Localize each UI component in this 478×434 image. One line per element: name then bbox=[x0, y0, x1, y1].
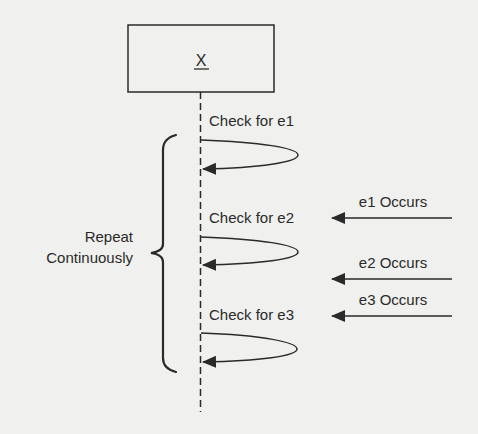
event-e2: e2 Occurs bbox=[332, 254, 452, 279]
repeat-label-line2: Continuously bbox=[46, 249, 133, 266]
check-label-e1: Check for e1 bbox=[209, 112, 294, 129]
check-label-e3: Check for e3 bbox=[209, 306, 294, 323]
self-loop-e3 bbox=[201, 333, 297, 362]
check-label-e2: Check for e2 bbox=[209, 209, 294, 226]
object-box: X bbox=[128, 25, 274, 92]
object-name: X bbox=[196, 52, 207, 69]
event-e3: e3 Occurs bbox=[332, 291, 452, 316]
self-loop-e1 bbox=[201, 140, 298, 169]
event-label-e2: e2 Occurs bbox=[359, 254, 427, 271]
event-label-e3: e3 Occurs bbox=[359, 291, 427, 308]
repeat-label-line1: Repeat bbox=[85, 228, 134, 245]
sequence-diagram: X Check for e1 Check for e2 Check for e3… bbox=[0, 0, 478, 434]
event-label-e1: e1 Occurs bbox=[359, 193, 427, 210]
event-e1: e1 Occurs bbox=[332, 193, 452, 218]
self-loop-e2 bbox=[201, 237, 298, 265]
curly-brace bbox=[151, 135, 176, 372]
